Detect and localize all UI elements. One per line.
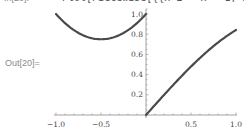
y-tick-label: 0.8 <box>131 30 143 39</box>
plot-output[interactable]: −1.0−0.50.51.00.20.40.60.81.0 <box>0 0 244 137</box>
y-tick-label: 0.4 <box>131 70 143 79</box>
y-tick-label: 0.6 <box>131 50 143 59</box>
x-tick-label: −0.5 <box>92 120 110 129</box>
y-tick-label: 0.2 <box>131 90 143 99</box>
y-tick-label: 1.0 <box>131 10 143 19</box>
x-tick-label: 1.0 <box>230 120 242 129</box>
x-tick-label: −1.0 <box>47 120 65 129</box>
plot-curve-sine <box>146 30 236 115</box>
x-tick-label: 0.5 <box>185 120 197 129</box>
